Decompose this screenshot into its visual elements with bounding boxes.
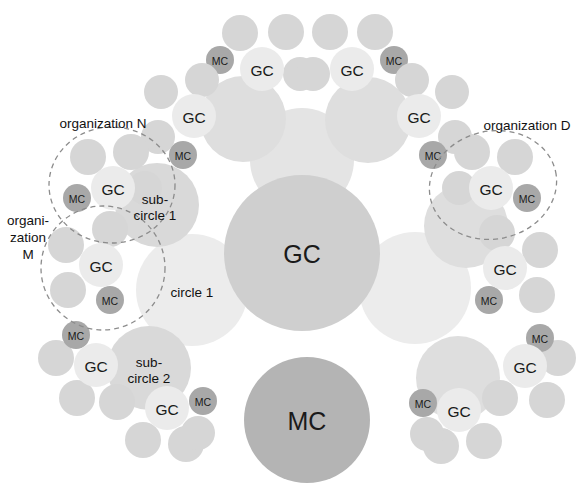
gc-org-n-role-1[interactable] — [70, 139, 106, 175]
gc-bottom-right-role-3[interactable] — [410, 417, 444, 451]
org-n-label: organization N — [59, 116, 146, 131]
gc-low-right-role-2[interactable] — [529, 382, 565, 418]
gc-low-right-mc-label: MC — [532, 333, 549, 345]
gc-org-n-role-2[interactable] — [113, 134, 149, 170]
gc-mid-right-role-1[interactable] — [522, 232, 558, 268]
sub-circle-2-label-line-2: circle 2 — [128, 371, 171, 386]
gc-bottom-left-role-3[interactable] — [181, 416, 215, 450]
gc-org-m-role-3[interactable] — [50, 272, 86, 308]
gc-mid-right-role-3[interactable] — [519, 277, 555, 313]
gc-org-m-mc-label: MC — [102, 295, 119, 307]
gc-upper-left-gc-label: GC — [182, 109, 205, 126]
gc-top-right-gc-label: GC — [340, 62, 363, 79]
gc-upper-right-role-2[interactable] — [395, 63, 429, 97]
gc-bottom-left-gc-label: GC — [155, 401, 178, 418]
circle-structure-diagram: GCMC GCMCGCMCGCMCGCMCGCMCGCMCGCMCGCMCGCM… — [0, 0, 584, 495]
sub-circle-1-label-line-2: circle 1 — [134, 208, 177, 223]
circle-1-label-line-1: circle 1 — [171, 285, 214, 300]
gc-low-right-role-3[interactable] — [482, 380, 518, 416]
gc-bottom-right-role-1[interactable] — [466, 423, 502, 459]
gc-org-d-mc-label: MC — [519, 193, 536, 205]
gc-bottom-left-mc-label: MC — [195, 396, 212, 408]
org-m-label-line-1: organi- — [7, 213, 49, 228]
gc-low-left-gc-label: GC — [84, 358, 107, 375]
gc-top-left-mc-label: MC — [212, 55, 229, 67]
gc-mid-right-role-2[interactable] — [479, 215, 515, 251]
org-d-label: organization D — [483, 118, 570, 133]
org-m-label-line-3: M — [22, 247, 33, 262]
gc-upper-left-mc-label: MC — [175, 150, 192, 162]
gc-org-d-gc-label: GC — [479, 181, 502, 198]
gc-org-m-gc-label: GC — [89, 258, 112, 275]
gc-top-right-role-2[interactable] — [357, 14, 393, 50]
gc-mid-right-mc-label: MC — [481, 295, 498, 307]
gc-top-left-gc-label: GC — [250, 62, 273, 79]
gc-low-left-mc-label: MC — [68, 330, 85, 342]
gc-low-right-gc-label: GC — [513, 359, 536, 376]
gc-mid-right-gc-label: GC — [493, 261, 516, 278]
center-nodes-layer: GCMC — [224, 175, 380, 483]
gc-low-left-role-3[interactable] — [99, 384, 135, 420]
gc-org-m-role-1[interactable] — [48, 227, 84, 263]
gc-top-right-role-1[interactable] — [312, 14, 348, 50]
diagram-canvas: GCMC GCMCGCMCGCMCGCMCGCMCGCMCGCMCGCMCGCM… — [0, 0, 584, 495]
gc-top-right-role-3[interactable] — [296, 57, 330, 91]
gc-upper-right-gc-label: GC — [407, 109, 430, 126]
center-mc-label: MC — [288, 407, 327, 435]
gc-bottom-right-gc-label: GC — [447, 403, 470, 420]
sub-circle-2-label-line-1: sub- — [136, 355, 162, 370]
gc-org-n-gc-label: GC — [101, 181, 124, 198]
sub-circle-1-label-line-1: sub- — [142, 192, 168, 207]
gc-top-right-mc-label: MC — [386, 55, 403, 67]
gc-upper-left-role-1[interactable] — [144, 75, 178, 109]
gc-top-left-role-1[interactable] — [222, 15, 258, 51]
gc-upper-left-role-2[interactable] — [185, 63, 219, 97]
org-m-label-line-2: zation — [10, 230, 46, 245]
gc-upper-right-role-1[interactable] — [435, 75, 469, 109]
gc-bottom-left-role-1[interactable] — [125, 422, 161, 458]
gc-org-n-mc-label: MC — [69, 193, 86, 205]
gc-bottom-right-mc-label: MC — [415, 398, 432, 410]
center-gc-label: GC — [283, 240, 321, 268]
gc-top-left-role-2[interactable] — [268, 14, 304, 50]
gc-org-d-role-2[interactable] — [454, 134, 490, 170]
